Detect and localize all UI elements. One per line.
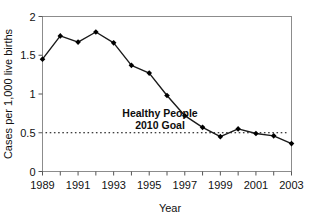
x-tick-label: 1993 bbox=[101, 179, 125, 191]
x-tick-label: 1989 bbox=[30, 179, 54, 191]
y-tick-label: 1.5 bbox=[20, 49, 35, 61]
x-tick-label: 1991 bbox=[66, 179, 90, 191]
y-tick-label: 2 bbox=[29, 11, 35, 23]
x-tick-label: 1997 bbox=[173, 179, 197, 191]
goal-annotation-line2: 2010 Goal bbox=[135, 119, 185, 131]
y-axis-title: Cases per 1,000 live births bbox=[2, 28, 14, 159]
y-tick-label: 0 bbox=[29, 166, 35, 178]
x-axis-ticks: 19891991199319951997199920012003 bbox=[30, 172, 303, 191]
y-axis-ticks: 00.511.52 bbox=[20, 11, 42, 178]
y-tick-label: 1 bbox=[29, 88, 35, 100]
x-tick-label: 2003 bbox=[279, 179, 303, 191]
x-tick-label: 2001 bbox=[244, 179, 268, 191]
chart-canvas: 00.511.52 198919911993199519971999200120… bbox=[0, 0, 309, 220]
chart-figure: 00.511.52 198919911993199519971999200120… bbox=[0, 0, 309, 220]
x-axis-title: Year bbox=[159, 202, 182, 214]
x-tick-label: 1999 bbox=[208, 179, 232, 191]
x-tick-label: 1995 bbox=[137, 179, 161, 191]
goal-annotation-line1: Healthy People bbox=[122, 107, 197, 119]
y-tick-label: 0.5 bbox=[20, 127, 35, 139]
